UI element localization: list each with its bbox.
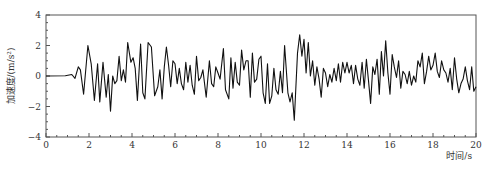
plot-frame: [46, 15, 476, 137]
x-tick-label: 0: [43, 140, 49, 150]
x-tick-label: 20: [470, 140, 482, 150]
y-tick-label: −2: [28, 102, 41, 112]
y-tick-label: −4: [28, 132, 42, 142]
x-tick-label: 6: [172, 140, 178, 150]
x-tick-label: 2: [86, 140, 92, 150]
y-tick-label: 2: [35, 41, 41, 51]
data-series: [46, 35, 476, 120]
x-tick-label: 16: [384, 140, 396, 150]
y-tick-label: 0: [35, 71, 41, 81]
x-tick-label: 18: [427, 140, 439, 150]
x-tick-label: 10: [255, 140, 267, 150]
acceleration-line: [46, 35, 476, 120]
x-axis-ticks: 02468101214161820: [43, 133, 482, 150]
y-tick-label: 4: [35, 10, 41, 20]
x-tick-label: 4: [129, 140, 135, 150]
x-tick-label: 12: [298, 140, 309, 150]
plot-border: [46, 15, 476, 137]
acceleration-time-chart: 02468101214161820 −4−2024 时间/s 加速度/(m/s²…: [0, 0, 492, 174]
x-tick-label: 14: [341, 140, 353, 150]
x-axis-title: 时间/s: [446, 150, 472, 161]
y-axis-title: 加速度/(m/s²): [5, 48, 16, 105]
x-tick-label: 8: [215, 140, 221, 150]
